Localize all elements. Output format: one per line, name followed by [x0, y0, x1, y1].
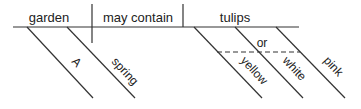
modifier-line-a [27, 27, 93, 98]
sentence-diagram: garden may contain tulips A spring yello… [0, 0, 361, 109]
modifier-spring: spring [109, 54, 142, 87]
modifier-pink: pink [321, 53, 347, 79]
conjunction-word: or [257, 36, 268, 50]
subject-word: garden [29, 10, 69, 25]
object-word: tulips [220, 10, 251, 25]
verb-word: may contain [103, 10, 173, 25]
modifier-a: A [69, 54, 85, 69]
